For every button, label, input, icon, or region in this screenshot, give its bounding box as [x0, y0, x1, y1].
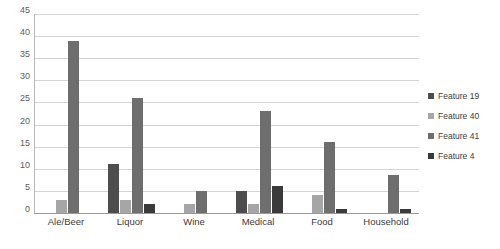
- bar: [132, 98, 143, 213]
- x-tick-label: Ale/Beer: [34, 216, 98, 227]
- bar: [248, 204, 259, 213]
- bar: [236, 191, 247, 213]
- legend-label: Feature 40: [438, 112, 479, 121]
- bar: [336, 209, 347, 213]
- bar: [312, 195, 323, 213]
- bar-group: [355, 14, 419, 213]
- legend-swatch-icon: [428, 113, 434, 119]
- y-tick-label: 10: [0, 160, 30, 169]
- legend-entry[interactable]: Feature 41: [428, 126, 500, 146]
- bar-group: [291, 14, 355, 213]
- bars-layer: [35, 14, 419, 213]
- x-tick-label: Wine: [162, 216, 226, 227]
- legend-label: Feature 4: [438, 152, 474, 161]
- bar-group: [99, 14, 163, 213]
- bar: [272, 186, 283, 213]
- y-tick-label: 45: [0, 6, 30, 15]
- bar: [400, 209, 411, 213]
- y-tick-label: 15: [0, 138, 30, 147]
- bar: [260, 111, 271, 213]
- bar: [196, 191, 207, 213]
- y-tick-label: 25: [0, 94, 30, 103]
- x-tick-label: Medical: [226, 216, 290, 227]
- bar: [108, 164, 119, 213]
- bar-group: [227, 14, 291, 213]
- legend-label: Feature 41: [438, 132, 479, 141]
- bar-group: [163, 14, 227, 213]
- legend-entry[interactable]: Feature 40: [428, 106, 500, 126]
- plot-area: [34, 14, 419, 214]
- bar-chart: 454035302520151050 Ale/BeerLiquorWineMed…: [0, 0, 500, 249]
- y-tick-label: 35: [0, 50, 30, 59]
- y-tick-label: 0: [0, 205, 30, 214]
- bar: [56, 200, 67, 213]
- x-tick-label: Food: [290, 216, 354, 227]
- y-tick-label: 5: [0, 182, 30, 191]
- bar: [324, 142, 335, 213]
- bar: [68, 41, 79, 213]
- y-tick-label: 30: [0, 72, 30, 81]
- legend-swatch-icon: [428, 93, 434, 99]
- y-tick-label: 40: [0, 28, 30, 37]
- x-axis: Ale/BeerLiquorWineMedicalFoodHousehold: [34, 216, 418, 236]
- legend-entry[interactable]: Feature 19: [428, 86, 500, 106]
- legend-entry[interactable]: Feature 4: [428, 146, 500, 166]
- bar: [388, 175, 399, 213]
- chart-legend: Feature 19Feature 40Feature 41Feature 4: [428, 86, 500, 166]
- y-axis: 454035302520151050: [0, 10, 30, 213]
- legend-swatch-icon: [428, 133, 434, 139]
- legend-swatch-icon: [428, 153, 434, 159]
- bar-group: [35, 14, 99, 213]
- x-tick-label: Liquor: [98, 216, 162, 227]
- x-tick-label: Household: [354, 216, 418, 227]
- bar: [120, 200, 131, 213]
- y-tick-label: 20: [0, 116, 30, 125]
- bar: [184, 204, 195, 213]
- legend-label: Feature 19: [438, 92, 479, 101]
- bar: [144, 204, 155, 213]
